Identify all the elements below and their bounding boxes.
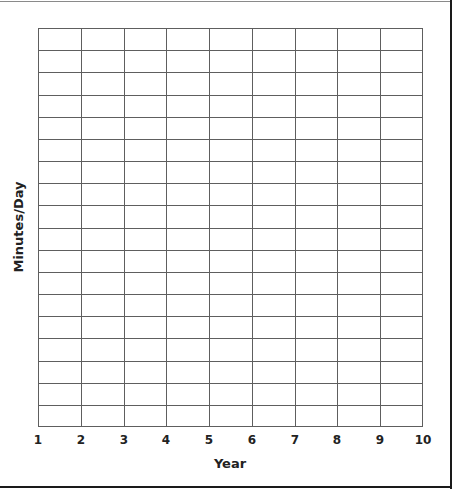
- grid-hline: [38, 72, 423, 73]
- grid-hline: [38, 250, 423, 251]
- grid-vline: [81, 28, 82, 427]
- grid-vline: [422, 28, 423, 427]
- x-tick-label: 4: [151, 433, 181, 447]
- grid-vline: [124, 28, 125, 427]
- grid-vline: [209, 28, 210, 427]
- grid-hline: [38, 383, 423, 384]
- x-tick-label: 8: [322, 433, 352, 447]
- grid-hline: [38, 338, 423, 339]
- grid-vline: [295, 28, 296, 427]
- x-axis-label: Year: [205, 456, 255, 471]
- x-tick-label: 5: [194, 433, 224, 447]
- grid-hline: [38, 228, 423, 229]
- x-tick-label: 9: [365, 433, 395, 447]
- grid-hline: [38, 361, 423, 362]
- grid-hline: [38, 405, 423, 406]
- grid-hline: [38, 272, 423, 273]
- x-tick-label: 10: [408, 433, 438, 447]
- x-tick-label: 7: [280, 433, 310, 447]
- grid-hline: [38, 426, 423, 427]
- grid-vline: [337, 28, 338, 427]
- plot-grid: [38, 28, 423, 427]
- x-tick-label: 6: [237, 433, 267, 447]
- x-tick-label: 1: [23, 433, 53, 447]
- grid-vline: [252, 28, 253, 427]
- grid-vline: [380, 28, 381, 427]
- frame-bottom-border: [0, 486, 452, 488]
- grid-hline: [38, 117, 423, 118]
- grid-vline: [166, 28, 167, 427]
- x-tick-label: 2: [66, 433, 96, 447]
- grid-hline: [38, 139, 423, 140]
- grid-hline: [38, 294, 423, 295]
- grid-hline: [38, 183, 423, 184]
- y-axis-label: Minutes/Day: [11, 181, 26, 272]
- grid-hline: [38, 28, 423, 29]
- grid-hline: [38, 50, 423, 51]
- x-tick-label: 3: [109, 433, 139, 447]
- grid-hline: [38, 316, 423, 317]
- grid-hline: [38, 161, 423, 162]
- grid-hline: [38, 95, 423, 96]
- grid-vline: [38, 28, 39, 427]
- frame-top-border: [0, 1, 452, 2]
- frame-right-border: [450, 0, 452, 489]
- grid-hline: [38, 205, 423, 206]
